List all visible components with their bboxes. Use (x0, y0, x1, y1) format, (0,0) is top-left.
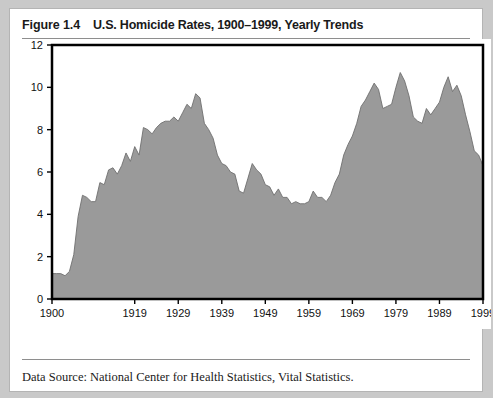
x-tick-label: 1939 (210, 307, 234, 319)
page-title: U.S. Homicide Rates, 1900–1999, Yearly T… (93, 18, 363, 32)
x-tick-label: 1919 (122, 307, 146, 319)
y-tick-label: 12 (31, 39, 43, 51)
y-tick-label: 0 (37, 293, 43, 305)
y-tick-label: 4 (37, 208, 43, 220)
x-tick-label: 1969 (340, 307, 364, 319)
x-tick-label: 1989 (427, 307, 451, 319)
x-tick-label: 1900 (40, 307, 64, 319)
y-tick-label: 8 (37, 124, 43, 136)
x-tick-label: 1999 (471, 307, 491, 319)
chart-area: 024681012 190019191929193919491959196919… (22, 39, 470, 359)
y-tick-label: 10 (31, 81, 43, 93)
figure-number: Figure 1.4 (22, 18, 80, 32)
figure-source-row: Data Source: National Center for Health … (10, 360, 482, 391)
x-tick-label: 1959 (297, 307, 321, 319)
y-tick-label: 6 (37, 166, 43, 178)
figure-card: Figure 1.4 U.S. Homicide Rates, 1900–199… (9, 8, 483, 392)
figure-outer-frame: Figure 1.4 U.S. Homicide Rates, 1900–199… (0, 0, 493, 398)
plot-group: 024681012 190019191929193919491959196919… (22, 39, 491, 329)
x-tick-label: 1949 (253, 307, 277, 319)
figure-title-row: Figure 1.4 U.S. Homicide Rates, 1900–199… (10, 9, 482, 38)
homicide-rate-area-chart: 024681012 190019191929193919491959196919… (22, 39, 491, 329)
data-source-text: Data Source: National Center for Health … (22, 370, 354, 384)
x-tick-label: 1929 (166, 307, 190, 319)
y-tick-label: 2 (37, 251, 43, 263)
x-tick-label: 1979 (384, 307, 408, 319)
